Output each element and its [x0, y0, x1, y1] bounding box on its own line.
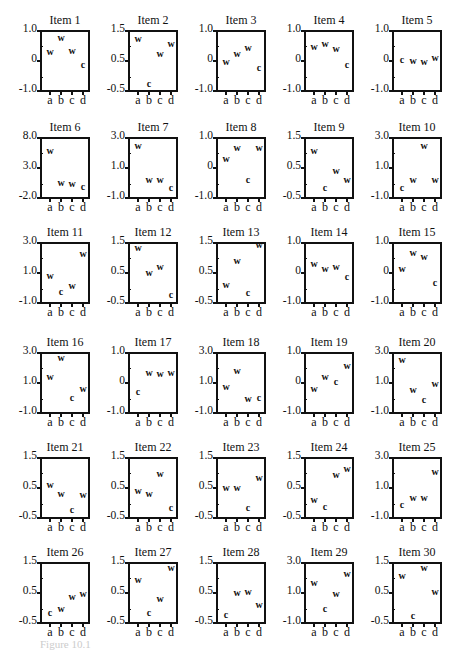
y-minor-tick [304, 473, 307, 475]
x-tick-label: b [408, 415, 418, 430]
w-marker: w [332, 589, 339, 599]
y-tick-label: 8.0 [0, 129, 37, 141]
chart-panel: Item 121.50.5-0.5abcdwwwc [88, 215, 180, 321]
x-tick-label: d [166, 625, 176, 640]
y-tick [213, 592, 217, 594]
x-tick-label: a [397, 93, 407, 108]
y-tick-label: 1.0 [173, 22, 213, 34]
w-marker: w [431, 175, 438, 185]
c-marker: c [246, 503, 250, 513]
w-marker: w [431, 587, 438, 597]
y-minor-tick [304, 153, 307, 155]
y-tick-label: 0.5 [0, 479, 37, 491]
w-marker: w [156, 262, 163, 272]
x-tick-label: c [155, 93, 165, 108]
y-tick-label: 0.5 [85, 52, 125, 64]
y-minor-tick [128, 289, 131, 291]
y-tick-label: 3.0 [0, 234, 37, 246]
y-minor-tick [216, 399, 219, 401]
y-tick-label: -0.5 [85, 82, 125, 94]
y-tick-label: 0.5 [85, 479, 125, 491]
x-tick-label: a [45, 200, 55, 215]
x-tick-label: a [221, 305, 231, 320]
y-minor-tick [304, 258, 307, 260]
chart-panel: Item 103.01.0-1.0abcdcwww [352, 110, 444, 216]
y-minor-tick [128, 578, 131, 580]
y-tick [37, 272, 41, 274]
x-tick-label: c [67, 93, 77, 108]
x-tick-label: c [155, 520, 165, 535]
w-marker: w [134, 486, 141, 496]
w-marker: w [409, 56, 416, 66]
y-tick-label: -1.0 [261, 614, 301, 626]
y-tick-label: 0.5 [349, 584, 389, 596]
y-minor-tick [304, 609, 307, 611]
y-tick-label: 1.5 [85, 554, 125, 566]
y-tick [213, 412, 217, 414]
chart-panel: Item 261.50.5-0.5abcdcwww [0, 535, 92, 641]
y-tick [37, 30, 41, 32]
y-tick-label: 1.5 [173, 554, 213, 566]
y-tick [213, 272, 217, 274]
y-tick [389, 242, 393, 244]
w-marker: w [134, 243, 141, 253]
w-marker: w [398, 264, 405, 274]
y-minor-tick [392, 289, 395, 291]
x-tick-label: b [320, 520, 330, 535]
x-tick-label: c [419, 520, 429, 535]
y-tick-label: 0 [261, 264, 301, 276]
x-tick-label: b [144, 520, 154, 535]
x-tick-label: b [144, 415, 154, 430]
c-marker: c [246, 175, 250, 185]
chart-panel: Item 293.01.0-1.0abcdwcww [264, 535, 356, 641]
small-multiples-grid: Item 11.00-1.0abcdwwwcItem 21.50.5-0.5ab… [0, 0, 456, 636]
c-marker: c [411, 611, 415, 621]
y-minor-tick [216, 473, 219, 475]
panel-title: Item 24 [304, 440, 354, 455]
y-tick-label: 1.0 [261, 584, 301, 596]
y-tick-label: -0.5 [173, 294, 213, 306]
chart-panel: Item 151.00-1.0abcdwwwc [352, 215, 444, 321]
chart-panel: Item 91.50.5-0.5abcdwcww [264, 110, 356, 216]
y-minor-tick [216, 258, 219, 260]
x-tick-label: d [78, 415, 88, 430]
y-minor-tick [40, 153, 43, 155]
panel-title: Item 23 [216, 440, 266, 455]
y-tick-label: -0.5 [349, 614, 389, 626]
y-tick [301, 197, 305, 199]
x-tick-label: c [331, 305, 341, 320]
y-tick [389, 60, 393, 62]
w-marker: w [321, 39, 328, 49]
w-marker: w [46, 271, 53, 281]
panel-title: Item 3 [216, 13, 266, 28]
w-marker: w [46, 480, 53, 490]
y-minor-tick [304, 77, 307, 79]
panel-title: Item 4 [304, 13, 354, 28]
y-tick [37, 622, 41, 624]
y-tick-label: -1.0 [173, 404, 213, 416]
x-tick-label: d [254, 200, 264, 215]
w-marker: w [68, 592, 75, 602]
y-tick [37, 167, 41, 169]
y-tick-label: -1.0 [173, 82, 213, 94]
y-tick-label: 1.5 [85, 234, 125, 246]
x-tick-label: d [254, 93, 264, 108]
y-minor-tick [128, 504, 131, 506]
x-tick-label: c [243, 93, 253, 108]
y-tick-label: 1.0 [85, 159, 125, 171]
x-tick-label: d [342, 415, 352, 430]
w-marker: w [68, 179, 75, 189]
y-minor-tick [216, 578, 219, 580]
y-tick [37, 90, 41, 92]
chart-panel: Item 221.50.5-0.5abcdwwwc [88, 430, 180, 536]
y-minor-tick [304, 368, 307, 370]
x-tick-label: d [78, 305, 88, 320]
y-tick-label: 1.5 [349, 554, 389, 566]
c-marker: c [400, 183, 404, 193]
x-tick-label: a [309, 520, 319, 535]
x-tick-label: d [254, 520, 264, 535]
y-tick-label: 1.0 [261, 344, 301, 356]
x-tick-label: d [430, 93, 440, 108]
panel-title: Item 28 [216, 545, 266, 560]
w-marker: w [244, 43, 251, 53]
